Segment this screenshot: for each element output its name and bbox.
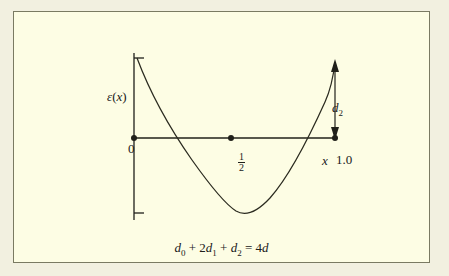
caption-plus-two: + 2: [189, 240, 206, 255]
epsilon-curve: [137, 58, 335, 213]
y-axis-label-close-paren: ): [122, 89, 126, 104]
caption-d0-subscript: 0: [181, 248, 186, 258]
d2-measure-label: d2: [332, 100, 343, 118]
right-endpoint-dot: [332, 135, 338, 141]
midpoint-denominator: 2: [238, 163, 245, 173]
figure-frame: ε(x) 0 1 2 x 1.0 d2 d0 + 2d1 + d2 = 4d: [13, 11, 430, 263]
caption-d2-subscript: 2: [237, 248, 242, 258]
y-axis-label: ε(x): [107, 89, 127, 105]
caption-d-symbol: d: [262, 240, 269, 255]
d2-measure-label-subscript: 2: [339, 108, 344, 118]
x-point-label: x: [322, 153, 328, 169]
d2-arrow-head-up: [331, 59, 339, 72]
caption-equation: d0 + 2d1 + d2 = 4d: [14, 240, 429, 258]
midpoint-tick-label: 1 2: [238, 152, 245, 173]
figure-root: ε(x) 0 1 2 x 1.0 d2 d0 + 2d1 + d2 = 4d: [0, 0, 449, 276]
right-endpoint-label: 1.0: [336, 152, 352, 168]
midpoint-dot: [228, 135, 234, 141]
caption-d1-subscript: 1: [212, 248, 217, 258]
plot-canvas: [14, 12, 429, 262]
caption-equals: = 4: [245, 240, 262, 255]
caption-plus: +: [220, 240, 227, 255]
origin-tick-label: 0: [128, 141, 135, 157]
